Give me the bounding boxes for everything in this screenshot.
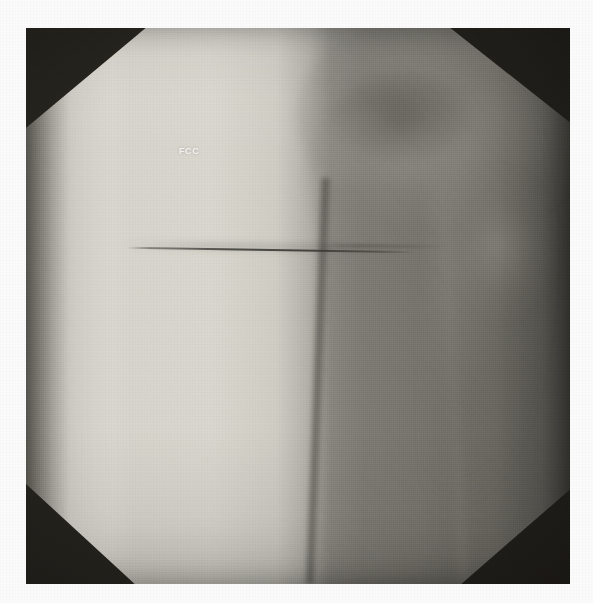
xray-plate[interactable] — [26, 28, 570, 584]
overlay-text-marker: FCC — [179, 147, 199, 156]
medial-soft-tissue-highlight — [37, 50, 135, 562]
radiograph-page: FCC — [0, 0, 593, 603]
lateral-muscle-bulge — [445, 173, 554, 318]
image-intensifier-field — [26, 28, 570, 584]
